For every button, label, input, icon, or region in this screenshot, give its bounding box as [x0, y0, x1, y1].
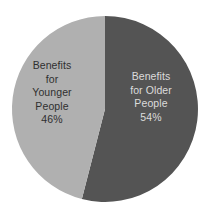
pie-chart: Benefits for Younger People 46% Benefits… [0, 0, 214, 218]
pie-chart-graphic [0, 0, 214, 218]
